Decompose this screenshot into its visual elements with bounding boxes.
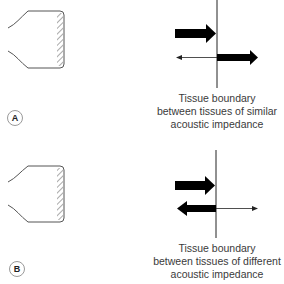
caption-line: between tissues of similar [140,105,284,118]
panel-b-caption: Tissue boundary between tissues of diffe… [140,242,284,281]
caption-line: between tissues of different [140,255,284,268]
transducer-icon [8,11,64,68]
panel-a-caption: Tissue boundary between tissues of simil… [140,92,284,131]
incident-arrow-icon [175,24,216,43]
transducer-icon [8,166,64,222]
transmitted-arrow-icon [217,50,258,65]
panel-b: Tissue boundary between tissues of diffe… [0,142,284,284]
caption-line: acoustic impedance [140,118,284,131]
caption-line: Tissue boundary [140,92,284,105]
caption-line: Tissue boundary [140,242,284,255]
panel-a: Tissue boundary between tissues of simil… [0,0,284,142]
incident-arrow-icon [175,176,215,195]
reflected-arrow-icon [177,201,216,216]
caption-line: acoustic impedance [140,268,284,281]
reflected-arrow-icon [176,55,217,60]
panel-label-a: A [7,110,23,126]
transmitted-arrow-icon [216,206,258,211]
panel-label-b: B [9,261,25,277]
